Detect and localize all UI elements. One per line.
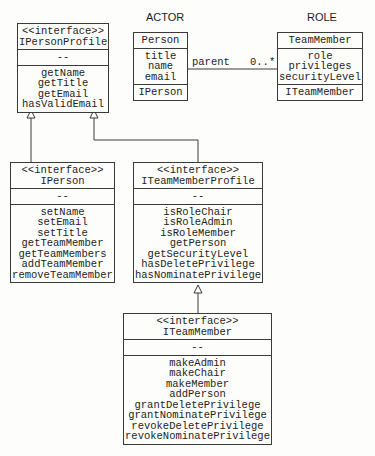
implemented-interface: IPerson xyxy=(135,87,186,98)
attribute: email xyxy=(135,72,186,83)
method: setEmail xyxy=(12,217,113,228)
stereotype: <<interface>> xyxy=(135,165,261,176)
association-label: parent xyxy=(192,56,230,68)
stereotype: <<interface>> xyxy=(19,26,107,37)
attribute: securityLevel xyxy=(279,72,361,83)
teammember-box: TeamMember role privileges securityLevel… xyxy=(277,32,363,101)
ipersonprofile-box: <<interface>> IPersonProfile -- getName … xyxy=(17,23,109,113)
generalization-iteammemberprofile-line xyxy=(94,118,198,162)
methods-section: isRoleChair isRoleAdmin isRoleMember get… xyxy=(134,204,262,283)
method: hasDeletePrivilege xyxy=(135,259,261,270)
methods-section: makeAdmin makeChair makeMember addPerson… xyxy=(124,355,271,444)
inheritance-arrow-icon xyxy=(194,285,202,293)
class-header: <<interface>> ITeamMember xyxy=(124,314,271,339)
class-name: IPersonProfile xyxy=(19,37,107,48)
method: makeChair xyxy=(125,368,270,379)
methods-section: getName getTitle getEmail hasValidEmail xyxy=(18,65,108,112)
method: hasNominatePrivilege xyxy=(135,270,261,281)
stereotype: <<interface>> xyxy=(12,165,113,176)
attribute: -- xyxy=(125,342,270,353)
method: grantNominatePrivilege xyxy=(125,410,270,421)
attribute: name xyxy=(135,61,186,72)
methods-section: setName setEmail setTitle getTeamMember … xyxy=(11,204,114,283)
method: hasValidEmail xyxy=(19,99,107,110)
class-name: ITeamMemberProfile xyxy=(135,176,261,187)
actor-header: ACTOR xyxy=(146,11,184,23)
iteammember-box: <<interface>> ITeamMember -- makeAdmin m… xyxy=(123,313,272,445)
iperson-box: <<interface>> IPerson -- setName setEmai… xyxy=(10,162,115,283)
person-box: Person title name email IPerson xyxy=(133,32,188,101)
attribute: -- xyxy=(12,191,113,202)
class-name: IPerson xyxy=(12,176,113,187)
association-multiplicity: 0..* xyxy=(250,56,275,68)
attributes-section: -- xyxy=(11,188,114,204)
attributes-section: -- xyxy=(124,339,271,355)
class-header: <<interface>> IPersonProfile xyxy=(18,24,108,49)
attributes-section: title name email xyxy=(134,48,187,85)
attributes-section: role privileges securityLevel xyxy=(278,48,362,85)
iteammemberprofile-box: <<interface>> ITeamMemberProfile -- isRo… xyxy=(133,162,263,283)
attribute: -- xyxy=(19,52,107,63)
class-name: TeamMember xyxy=(279,35,361,46)
method: getPerson xyxy=(135,238,261,249)
attributes-section: -- xyxy=(134,188,262,204)
class-header: Person xyxy=(134,33,187,48)
attributes-section: -- xyxy=(18,49,108,65)
stereotype: <<interface>> xyxy=(125,316,270,327)
method: addTeamMember xyxy=(12,259,113,270)
class-header: <<interface>> IPerson xyxy=(11,163,114,188)
implemented-interface: ITeamMember xyxy=(279,87,361,98)
attribute: -- xyxy=(135,191,261,202)
class-name: Person xyxy=(135,35,186,46)
method: getTeamMember xyxy=(12,238,113,249)
class-name: ITeamMember xyxy=(125,327,270,338)
role-header: ROLE xyxy=(307,11,337,23)
method: removeTeamMember xyxy=(12,270,113,281)
method: getTitle xyxy=(19,78,107,89)
method: revokeNominatePrivilege xyxy=(125,431,270,442)
attribute: privileges xyxy=(279,61,361,72)
class-header: <<interface>> ITeamMemberProfile xyxy=(134,163,262,188)
method: isRoleAdmin xyxy=(135,217,261,228)
class-header: TeamMember xyxy=(278,33,362,48)
interface-section: ITeamMember xyxy=(278,84,362,100)
interface-section: IPerson xyxy=(134,84,187,100)
method: addPerson xyxy=(125,389,270,400)
